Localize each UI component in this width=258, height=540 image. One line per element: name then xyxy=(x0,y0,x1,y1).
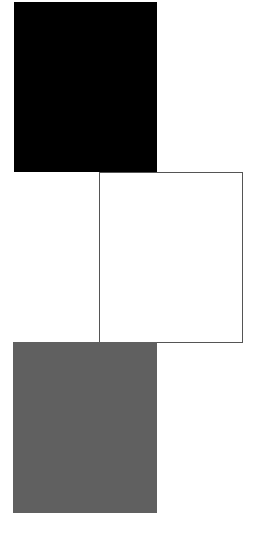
black-swatch xyxy=(14,2,157,172)
gray-swatch xyxy=(13,342,157,513)
white-swatch xyxy=(99,172,243,343)
canvas xyxy=(0,0,258,540)
